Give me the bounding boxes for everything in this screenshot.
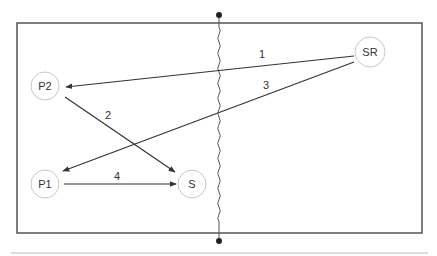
edge-label: 2 [105,109,111,121]
edge-label: 4 [114,170,120,182]
node-label: P1 [38,178,51,190]
wavy-line [218,15,221,241]
edge-label: 3 [263,79,269,91]
edge-arrow [66,56,354,87]
edge-4: 4 [64,170,176,184]
network-diagram: 1234 SRP2P1S [0,0,437,256]
wavy-partition-line [216,12,222,244]
edge-1: 1 [66,48,354,87]
node-label: SR [362,46,377,58]
edge-2: 2 [65,97,175,172]
node-label: P2 [38,80,51,92]
edge-label: 1 [259,48,265,60]
node-s: S [178,170,206,198]
top-anchor-dot [216,12,222,18]
bottom-anchor-dot [216,238,222,244]
nodes: SRP2P1S [31,37,385,198]
edges: 1234 [63,48,354,184]
node-p1: P1 [31,170,59,198]
node-sr: SR [355,37,385,67]
node-p2: P2 [31,72,59,100]
edge-arrow [65,97,175,172]
node-label: S [188,178,195,190]
